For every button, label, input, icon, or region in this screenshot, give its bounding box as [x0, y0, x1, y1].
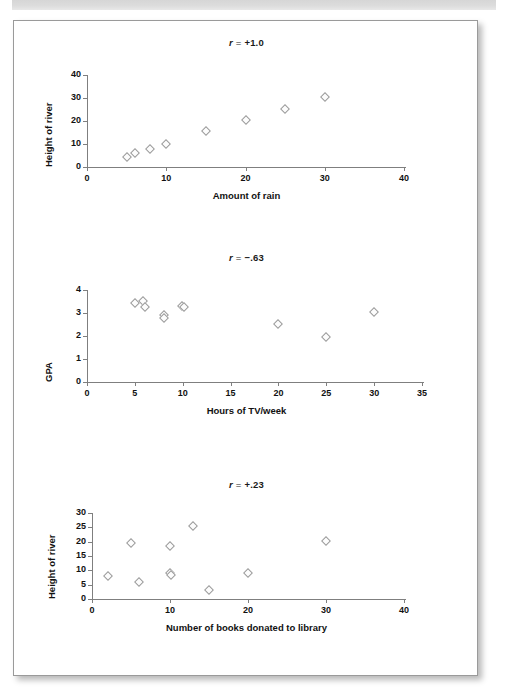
chart-1-y-tick-label: 30: [51, 92, 81, 102]
chart-2-y-tick-label: 1: [51, 353, 81, 363]
chart-1-x-tick: [166, 167, 167, 171]
chart-3-title-r: r: [229, 479, 233, 490]
chart-2-y-axis: [87, 290, 88, 383]
chart-1-title-eq: =: [236, 37, 242, 48]
chart-2-x-tick-label: 5: [121, 388, 149, 398]
chart-2-x-tick-label: 15: [217, 388, 245, 398]
chart-3-x-axis: [92, 599, 406, 600]
chart-3-y-axis-title: Height of river: [46, 535, 57, 599]
chart-1-x-axis-title: Amount of rain: [14, 190, 479, 201]
chart-3-x-tick: [170, 599, 171, 603]
chart-3-title: r = +.23: [14, 479, 479, 490]
chart-3-x-tick-label: 0: [78, 605, 106, 615]
data-point-marker: [126, 538, 136, 548]
data-point-marker: [369, 307, 379, 317]
data-point-marker: [201, 126, 211, 136]
chart-2-y-tick-label: 2: [51, 330, 81, 340]
data-point-marker: [321, 536, 331, 546]
chart-2-x-tick-label: 20: [264, 388, 292, 398]
chart-2-x-tick-label: 25: [312, 388, 340, 398]
chart-1-x-tick-label: 30: [311, 173, 339, 183]
chart-3-y-tick: [88, 599, 92, 600]
chart-3-x-axis-title: Number of books donated to library: [14, 622, 479, 633]
data-point-marker: [320, 92, 330, 102]
chart-2-x-tick: [374, 382, 375, 386]
chart-3-y-tick-label: 30: [56, 507, 86, 517]
data-point-marker: [188, 522, 198, 532]
chart-3-y-tick: [88, 556, 92, 557]
chart-2-x-tick: [278, 382, 279, 386]
chart-1-y-tick: [83, 121, 87, 122]
chart-1-y-tick-label: 20: [51, 115, 81, 125]
chart-2-x-tick: [135, 382, 136, 386]
chart-3-x-tick: [326, 599, 327, 603]
chart-2-title: r = −.63: [14, 252, 479, 263]
top-banner-strip: [12, 0, 496, 10]
data-point-marker: [145, 144, 155, 154]
page-root: r = +1.0 010203040010203040Amount of rai…: [0, 0, 508, 697]
chart-2-title-r: r: [229, 252, 233, 263]
data-point-marker: [165, 541, 175, 551]
chart-2-x-tick: [326, 382, 327, 386]
scatter-chart-3: r = +.23 010203040051015202530Number of …: [14, 471, 479, 671]
chart-1-x-tick: [404, 167, 405, 171]
chart-3-y-tick: [88, 585, 92, 586]
chart-1-y-axis-title: Height of river: [43, 103, 54, 167]
chart-1-x-tick: [246, 167, 247, 171]
chart-2-y-tick-label: 0: [51, 376, 81, 386]
chart-2-title-value: −.63: [244, 252, 264, 263]
chart-2-x-tick-label: 35: [408, 388, 436, 398]
chart-3-y-tick: [88, 570, 92, 571]
chart-1-y-tick-label: 10: [51, 138, 81, 148]
chart-2-plot-area: 0510152025303501234Hours of TV/weekGPA: [87, 290, 422, 382]
chart-1-x-tick-label: 40: [390, 173, 418, 183]
chart-2-x-tick-label: 0: [73, 388, 101, 398]
chart-2-x-tick: [422, 382, 423, 386]
chart-2-x-tick: [87, 382, 88, 386]
data-point-marker: [241, 115, 251, 125]
chart-3-x-tick: [248, 599, 249, 603]
chart-1-title: r = +1.0: [14, 37, 479, 48]
chart-3-x-tick-label: 40: [390, 605, 418, 615]
data-point-marker: [103, 571, 113, 581]
chart-1-title-value: +1.0: [244, 37, 264, 48]
chart-3-title-value: +.23: [244, 479, 264, 490]
chart-1-y-tick: [83, 98, 87, 99]
chart-1-x-tick-label: 0: [73, 173, 101, 183]
chart-3-x-tick: [404, 599, 405, 603]
chart-2-y-tick: [83, 313, 87, 314]
data-point-marker: [280, 104, 290, 114]
chart-1-y-tick-label: 0: [51, 161, 81, 171]
chart-1-title-r: r: [229, 37, 233, 48]
chart-3-y-tick-label: 5: [56, 579, 86, 589]
data-point-marker: [134, 577, 144, 587]
chart-2-y-tick: [83, 336, 87, 337]
chart-1-plot-area: 010203040010203040Amount of rainHeight o…: [87, 75, 404, 167]
chart-1-x-tick-label: 10: [152, 173, 180, 183]
chart-1-y-tick-label: 40: [51, 69, 81, 79]
chart-2-x-tick-label: 30: [360, 388, 388, 398]
chart-3-x-tick-label: 20: [234, 605, 262, 615]
chart-2-y-tick-label: 3: [51, 307, 81, 317]
figure-card: r = +1.0 010203040010203040Amount of rai…: [13, 20, 478, 676]
chart-2-y-axis-title: GPA: [43, 362, 54, 382]
chart-2-title-eq: =: [236, 252, 242, 263]
chart-3-y-tick-label: 0: [56, 593, 86, 603]
chart-1-x-axis: [87, 167, 406, 168]
chart-1-x-tick: [87, 167, 88, 171]
chart-3-title-eq: =: [236, 479, 242, 490]
chart-3-y-tick: [88, 513, 92, 514]
chart-3-plot-area: 010203040051015202530Number of books don…: [92, 513, 404, 599]
chart-3-y-tick-label: 20: [56, 536, 86, 546]
chart-2-x-tick: [231, 382, 232, 386]
data-point-marker: [321, 332, 331, 342]
chart-2-x-tick: [183, 382, 184, 386]
chart-2-x-tick-label: 10: [169, 388, 197, 398]
chart-3-x-tick-label: 10: [156, 605, 184, 615]
scatter-chart-2: r = −.63 0510152025303501234Hours of TV/…: [14, 244, 479, 459]
chart-3-y-axis: [92, 513, 93, 600]
chart-3-y-tick: [88, 527, 92, 528]
chart-3-y-tick-label: 10: [56, 564, 86, 574]
chart-3-x-tick: [92, 599, 93, 603]
chart-1-x-tick-label: 20: [232, 173, 260, 183]
